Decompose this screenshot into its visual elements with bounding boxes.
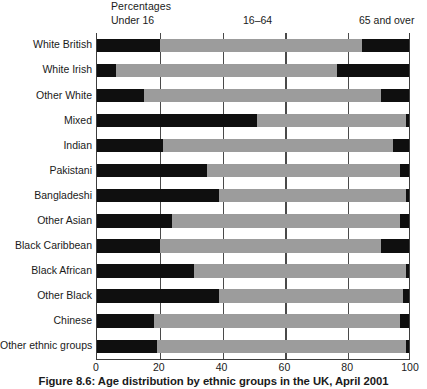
bar-segment-16-64 <box>257 114 408 127</box>
x-axis-line <box>96 359 410 361</box>
stacked-bar[interactable] <box>97 89 409 102</box>
category-axis-labels: White BritishWhite IrishOther WhiteMixed… <box>0 33 92 359</box>
x-tick-label-80: 80 <box>341 361 353 374</box>
bar-row <box>97 83 409 108</box>
stacked-bar[interactable] <box>97 164 409 177</box>
x-tick-label-0: 0 <box>93 361 99 374</box>
category-label: Bangladeshi <box>0 189 92 202</box>
bar-segment-under-16 <box>97 340 157 353</box>
x-tick-label-60: 60 <box>279 361 291 374</box>
bar-segment-under-16 <box>97 64 116 77</box>
bar-segment-16-64 <box>116 64 339 77</box>
bar-segment-under-16 <box>97 289 219 302</box>
stacked-bar[interactable] <box>97 189 409 202</box>
category-label: White Irish <box>0 63 92 76</box>
bar-segment-16-64 <box>194 264 408 277</box>
bar-segment-under-16 <box>97 314 154 327</box>
legend-band-labels: Under 16 16–64 65 and over <box>0 14 427 29</box>
category-label: Mixed <box>0 114 92 127</box>
category-label: Pakistani <box>0 164 92 177</box>
chart-figure: Percentages Under 16 16–64 65 and over W… <box>0 0 427 389</box>
percentages-axis-label: Percentages <box>111 0 171 12</box>
bar-row <box>97 183 409 208</box>
category-label: Other White <box>0 89 92 102</box>
legend-label-65-and-over: 65 and over <box>359 14 414 27</box>
bar-segment-under-16 <box>97 214 172 227</box>
stacked-bar[interactable] <box>97 139 409 152</box>
bar-row <box>97 259 409 284</box>
stacked-bar[interactable] <box>97 264 409 277</box>
plot-area <box>96 33 410 359</box>
bar-segment-65-and-over <box>381 89 409 102</box>
figure-caption: Figure 8.6: Age distribution by ethnic g… <box>0 374 427 388</box>
x-tick-label-20: 20 <box>153 361 165 374</box>
bar-row <box>97 234 409 259</box>
bar-segment-65-and-over <box>400 164 409 177</box>
bar-segment-65-and-over <box>393 139 409 152</box>
bar-segment-16-64 <box>163 139 395 152</box>
bar-segment-65-and-over <box>403 289 409 302</box>
stacked-bar[interactable] <box>97 340 409 353</box>
stacked-bar[interactable] <box>97 289 409 302</box>
bar-row <box>97 209 409 234</box>
bar-segment-under-16 <box>97 164 207 177</box>
category-label: Chinese <box>0 314 92 327</box>
stacked-bar[interactable] <box>97 314 409 327</box>
bar-segment-65-and-over <box>381 239 409 252</box>
bar-segment-65-and-over <box>362 39 409 52</box>
bar-row <box>97 158 409 183</box>
legend-label-under-16: Under 16 <box>111 14 154 27</box>
bar-rows <box>97 33 409 359</box>
category-label: Indian <box>0 139 92 152</box>
x-tick-label-40: 40 <box>216 361 228 374</box>
bar-row <box>97 309 409 334</box>
bar-segment-65-and-over <box>406 264 409 277</box>
bar-segment-16-64 <box>207 164 402 177</box>
bar-segment-65-and-over <box>406 189 409 202</box>
bar-segment-16-64 <box>157 340 408 353</box>
bar-segment-16-64 <box>219 189 407 202</box>
bar-row <box>97 108 409 133</box>
category-label: Black African <box>0 264 92 277</box>
bar-segment-16-64 <box>154 314 402 327</box>
category-label: Other ethnic groups <box>0 339 92 352</box>
category-label: White British <box>0 38 92 51</box>
category-label: Black Caribbean <box>0 239 92 252</box>
stacked-bar[interactable] <box>97 239 409 252</box>
bar-segment-16-64 <box>219 289 404 302</box>
bar-segment-under-16 <box>97 189 219 202</box>
bar-segment-under-16 <box>97 239 160 252</box>
bar-segment-under-16 <box>97 39 160 52</box>
bar-segment-under-16 <box>97 139 163 152</box>
bar-segment-65-and-over <box>400 314 409 327</box>
bar-segment-65-and-over <box>337 64 409 77</box>
bar-segment-under-16 <box>97 114 257 127</box>
stacked-bar[interactable] <box>97 39 409 52</box>
bar-segment-16-64 <box>172 214 401 227</box>
x-axis-tick-labels: 020406080100 <box>0 361 427 375</box>
stacked-bar[interactable] <box>97 214 409 227</box>
bar-segment-16-64 <box>160 39 364 52</box>
bar-segment-16-64 <box>160 239 383 252</box>
x-tick-label-100: 100 <box>401 361 419 374</box>
bar-row <box>97 33 409 58</box>
stacked-bar[interactable] <box>97 114 409 127</box>
bar-segment-under-16 <box>97 264 194 277</box>
bar-row <box>97 133 409 158</box>
bar-segment-16-64 <box>144 89 383 102</box>
legend-label-16-64: 16–64 <box>243 14 272 27</box>
bar-row <box>97 284 409 309</box>
stacked-bar[interactable] <box>97 64 409 77</box>
bar-segment-under-16 <box>97 89 144 102</box>
bar-segment-65-and-over <box>400 214 409 227</box>
bar-segment-65-and-over <box>406 340 409 353</box>
category-label: Other Black <box>0 289 92 302</box>
category-label: Other Asian <box>0 214 92 227</box>
bar-row <box>97 334 409 359</box>
bar-segment-65-and-over <box>406 114 409 127</box>
bar-row <box>97 58 409 83</box>
